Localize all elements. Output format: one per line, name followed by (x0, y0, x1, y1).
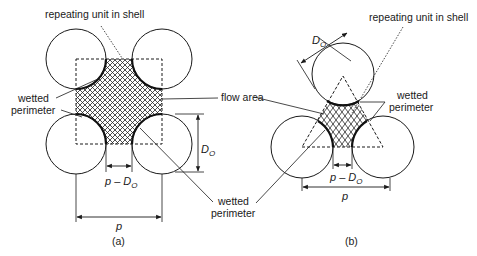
flow-area-hatch-a (46, 29, 192, 174)
leader-repeating-unit-a (101, 26, 122, 58)
caption-a: (a) (112, 235, 125, 247)
leader-wetted-b-left (256, 130, 325, 203)
label-pitch-a: p (115, 220, 122, 232)
label-wetted-b-2: perimeter (389, 101, 434, 113)
label-diameter-b: DO (312, 34, 326, 49)
label-pitch-b: p (341, 190, 348, 202)
label-gap-a: p – DO (104, 175, 138, 190)
label-wetted-a-right-2: perimeter (211, 207, 256, 219)
label-wetted-a-left-1: wetted (17, 92, 49, 104)
label-wetted-a-left-2: perimeter (11, 104, 56, 116)
leader-flow-area-a (162, 98, 218, 99)
panel-a: repeating unit in shell wetted perimeter… (11, 8, 264, 247)
label-gap-b: p – DO (329, 171, 363, 186)
caption-b: (b) (345, 235, 358, 247)
label-repeating-unit-a: repeating unit in shell (45, 8, 144, 20)
label-diameter-a: DO (201, 143, 215, 158)
leader-wetted-a-right (140, 128, 213, 202)
leader-flow-area-b (254, 97, 324, 114)
label-wetted-b-1: wetted (396, 89, 428, 101)
label-flow-area: flow area (221, 91, 264, 103)
tube-bundle-diagram: repeating unit in shell wetted perimeter… (0, 0, 477, 256)
label-wetted-a-right-1: wetted (217, 195, 249, 207)
label-repeating-unit-b: repeating unit in shell (369, 11, 468, 23)
panel-b: DO repeating unit in shell wetted perime… (254, 11, 468, 247)
